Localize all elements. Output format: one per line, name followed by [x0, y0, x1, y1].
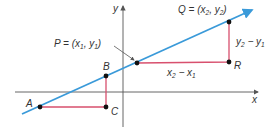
slope-diagram: x y A B C R P = (x1, y1) Q = (x2, y2) x2…: [0, 0, 273, 131]
point-P: [135, 61, 140, 66]
label-B: B: [103, 61, 110, 72]
label-R: R: [234, 60, 241, 71]
pointer-arrow-P: [114, 46, 134, 60]
label-Q-coords: Q = (x2, y2): [178, 4, 227, 16]
triangle-PRQ: [137, 22, 229, 63]
label-run: x2 − x1: [166, 67, 196, 79]
x-axis-label: x: [251, 94, 258, 105]
point-Q: [227, 20, 232, 25]
label-A: A: [25, 98, 33, 109]
point-B: [104, 74, 109, 79]
label-C: C: [111, 106, 119, 117]
point-C: [104, 105, 109, 110]
label-P-coords: P = (x1, y1): [54, 38, 101, 50]
point-A: [38, 105, 43, 110]
label-rise: y2 − y1: [235, 36, 265, 48]
point-R: [227, 60, 232, 65]
y-axis-label: y: [112, 3, 119, 14]
